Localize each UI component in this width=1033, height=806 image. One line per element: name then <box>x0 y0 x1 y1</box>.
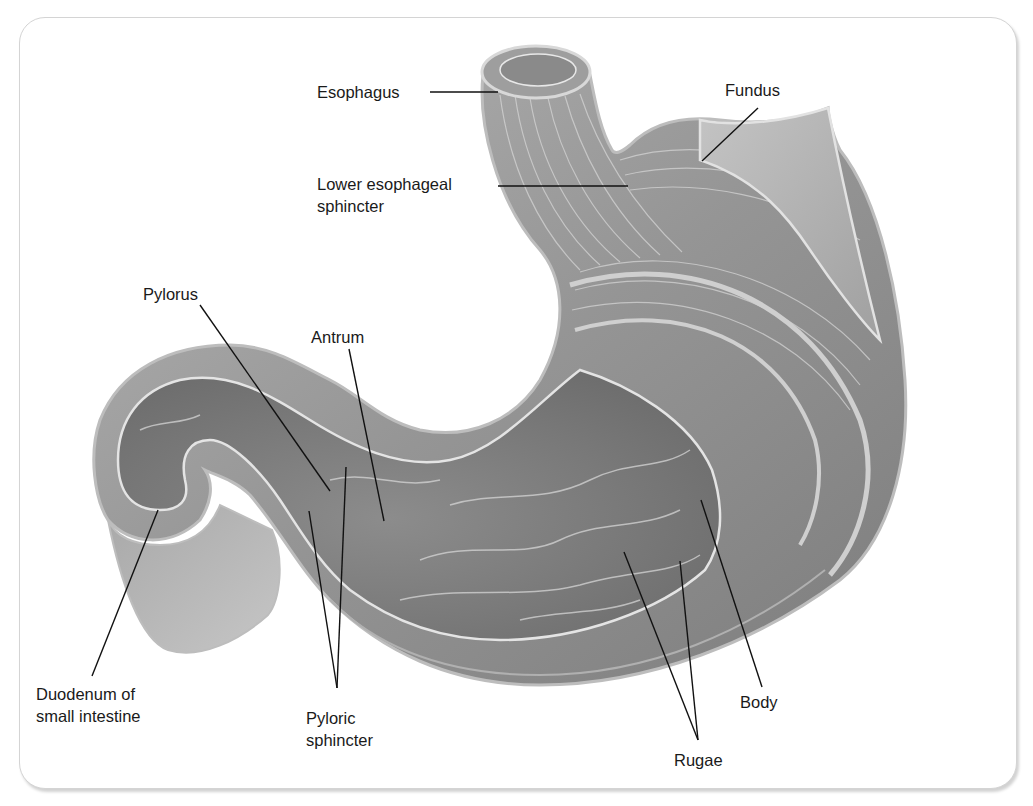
label-text: small intestine <box>36 705 141 727</box>
label-pyloric-sphincter: Pyloric sphincter <box>306 707 373 751</box>
label-lower-esophageal-sphincter: Lower esophageal sphincter <box>317 173 452 217</box>
label-esophagus: Esophagus <box>317 81 400 103</box>
label-text: Fundus <box>725 79 780 101</box>
label-text: sphincter <box>317 195 452 217</box>
label-duodenum: Duodenum of small intestine <box>36 683 141 727</box>
label-text: Rugae <box>674 749 723 771</box>
label-antrum: Antrum <box>311 326 364 348</box>
label-text: Pylorus <box>143 283 198 305</box>
label-text: Pyloric <box>306 707 373 729</box>
label-pylorus: Pylorus <box>143 283 198 305</box>
label-fundus: Fundus <box>725 79 780 101</box>
label-text: Lower esophageal <box>317 173 452 195</box>
label-rugae: Rugae <box>674 749 723 771</box>
label-text: Antrum <box>311 326 364 348</box>
label-text: Body <box>740 691 778 713</box>
esophagus-mucosa <box>500 54 576 86</box>
label-text: sphincter <box>306 729 373 751</box>
label-body: Body <box>740 691 778 713</box>
label-text: Esophagus <box>317 81 400 103</box>
label-text: Duodenum of <box>36 683 141 705</box>
stomach-illustration <box>0 0 1033 806</box>
